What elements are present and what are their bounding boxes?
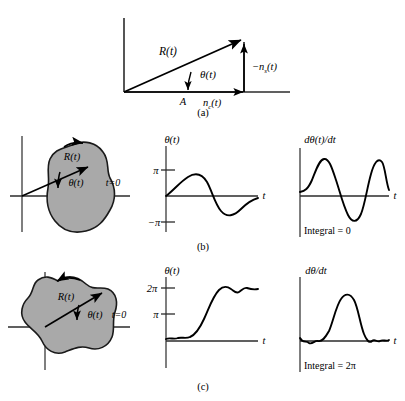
panel-b-theta-ylabel: θ(t) bbox=[164, 134, 180, 146]
inphase-noise-suffix: (t) bbox=[211, 97, 221, 109]
panel-b-derivative-plot: dθ(t)/dt t Integral = 0 bbox=[300, 134, 398, 237]
panel-c-locus-diagram: R(t) θ(t) t=0 bbox=[8, 272, 130, 370]
panel-b-deriv-integral-annotation: Integral = 0 bbox=[304, 225, 351, 236]
panel-b-theta-xlabel: t bbox=[263, 190, 267, 201]
panel-c-angle-label: θ(t) bbox=[87, 309, 103, 321]
panel-b-deriv-ylabel: dθ(t)/dt bbox=[304, 134, 336, 146]
panel-c-theta-curve bbox=[166, 287, 258, 339]
resultant-vector-arrow bbox=[124, 40, 241, 92]
panel-b-theta-plot: θ(t) t π −π bbox=[148, 134, 267, 232]
panel-b-resultant-label: R(t) bbox=[63, 151, 81, 163]
panel-c-theta-plot: θ(t) t 2π π bbox=[147, 265, 267, 368]
amplitude-label: A bbox=[179, 96, 187, 107]
panel-b-theta-ytick-pi: π bbox=[153, 165, 159, 176]
quadrature-noise-base: −n bbox=[252, 61, 264, 72]
panel-b-caption: (b) bbox=[197, 241, 210, 253]
panel-c-deriv-ylabel: dθ/dt bbox=[305, 265, 328, 276]
angle-label: θ(t) bbox=[200, 68, 216, 81]
panel-c-deriv-integral-annotation: Integral = 2π bbox=[304, 360, 356, 371]
panel-c: R(t) θ(t) t=0 θ(t) t 2π π dθ/dt t Integr… bbox=[8, 265, 398, 393]
resultant-label: R(t) bbox=[158, 45, 177, 58]
quadrature-noise-suffix: (t) bbox=[267, 61, 277, 73]
panel-c-theta-ytick-2pi: 2π bbox=[147, 283, 158, 294]
panel-c-resultant-label: R(t) bbox=[57, 291, 75, 303]
panel-c-time-zero-label: t=0 bbox=[112, 309, 127, 320]
panel-b-theta-curve bbox=[166, 174, 258, 215]
panel-c-theta-ytick-pi: π bbox=[153, 309, 159, 320]
panel-c-theta-xlabel: t bbox=[263, 335, 267, 346]
panel-c-derivative-plot: dθ/dt t Integral = 2π bbox=[300, 265, 398, 372]
panel-c-caption: (c) bbox=[197, 381, 209, 393]
panel-c-deriv-curve bbox=[300, 295, 389, 344]
panel-b: R(t) θ(t) t=0 θ(t) t π −π dθ(t)/dt t Int… bbox=[10, 134, 398, 253]
panel-b-deriv-curve bbox=[300, 159, 389, 221]
angle-indicator-arrow bbox=[188, 72, 191, 90]
figure-root: R(t) θ(t) A nc(t) −ns(t) (a) R(t) θ(t) bbox=[0, 0, 405, 401]
panel-a-caption: (a) bbox=[197, 107, 209, 119]
panel-b-angle-label: θ(t) bbox=[68, 177, 84, 189]
panel-b-time-zero-label: t=0 bbox=[106, 177, 121, 188]
panel-c-theta-ylabel: θ(t) bbox=[164, 265, 180, 277]
panel-b-theta-ytick-negpi: −π bbox=[148, 217, 161, 228]
quadrature-noise-label: −ns(t) bbox=[252, 61, 277, 75]
panel-c-deriv-xlabel: t bbox=[394, 335, 398, 346]
panel-b-deriv-xlabel: t bbox=[394, 190, 398, 201]
panel-b-locus-diagram: R(t) θ(t) t=0 bbox=[10, 136, 130, 232]
panel-a: R(t) θ(t) A nc(t) −ns(t) (a) bbox=[124, 18, 290, 119]
